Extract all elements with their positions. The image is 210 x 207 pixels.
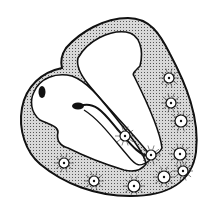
heart-diagram: [0, 0, 210, 207]
sa-node: [39, 86, 46, 98]
heart-cross-section: [0, 0, 210, 207]
